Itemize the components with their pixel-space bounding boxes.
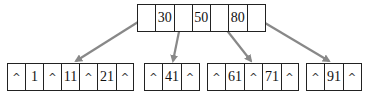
null-pointer-cell: ^: [8, 64, 26, 90]
key-cell: 11: [62, 64, 80, 90]
arrow-to-leaf-4: [255, 17, 329, 61]
null-pointer-cell: ^: [182, 64, 198, 90]
leaf-node-4: ^ 91 ^: [306, 63, 362, 91]
key-cell: 21: [98, 64, 117, 90]
null-pointer-cell: ^: [44, 64, 62, 90]
key-cell: 41: [163, 64, 182, 90]
key-cell: 91: [325, 64, 344, 90]
null-pointer-cell: ^: [145, 64, 163, 90]
key-cell: 80: [229, 5, 248, 31]
pointer-cell: [138, 5, 156, 31]
key-cell: 61: [226, 64, 245, 90]
key-cell: 50: [193, 5, 212, 31]
null-pointer-cell: ^: [117, 64, 133, 90]
pointer-cell: [248, 5, 265, 31]
key-cell: 30: [156, 5, 175, 31]
leaf-node-2: ^ 41 ^: [144, 63, 200, 91]
null-pointer-cell: ^: [344, 64, 360, 90]
pointer-cell: [211, 5, 229, 31]
null-pointer-cell: ^: [80, 64, 98, 90]
root-node: 30 50 80: [137, 4, 266, 32]
null-pointer-cell: ^: [208, 64, 226, 90]
leaf-node-3: ^ 61 ^ 71 ^: [207, 63, 299, 91]
pointer-cell: [175, 5, 193, 31]
leaf-node-1: ^ 1 ^ 11 ^ 21 ^: [7, 63, 134, 91]
null-pointer-cell: ^: [307, 64, 325, 90]
arrow-to-leaf-1: [76, 17, 146, 61]
key-cell: 71: [263, 64, 282, 90]
null-pointer-cell: ^: [282, 64, 297, 90]
null-pointer-cell: ^: [245, 64, 263, 90]
key-cell: 1: [26, 64, 44, 90]
